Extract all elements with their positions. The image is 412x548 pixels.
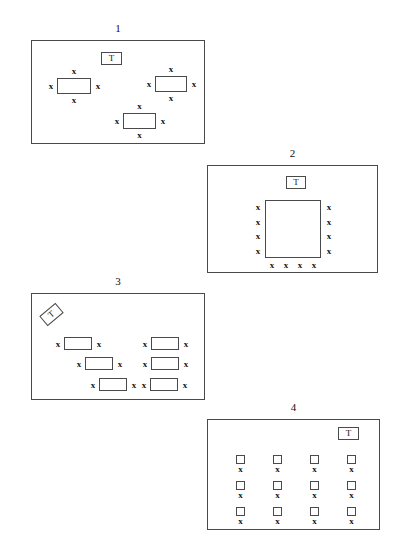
panel-3: 3Txxxxxxxxxxxx xyxy=(31,293,205,400)
node-2-center[interactable] xyxy=(265,200,321,258)
node-3-e-mark-left: x xyxy=(88,381,98,390)
node-1-bottom[interactable] xyxy=(123,113,156,129)
node-3-d-mark-left: x xyxy=(140,360,150,369)
grid-4-cell-r1c2[interactable] xyxy=(273,455,282,464)
panel-2: 2Txxxxxxxxxxxx xyxy=(207,165,378,273)
grid-4-mark-r3c2: x xyxy=(273,517,283,526)
grid-4-cell-r2c4[interactable] xyxy=(347,481,356,490)
node-1-right-mark-bottom: x xyxy=(165,94,177,103)
node-1-left-mark-top: x xyxy=(68,67,80,76)
node-1-bottom-mark-top: x xyxy=(134,102,146,111)
grid-4-mark-r1c4: x xyxy=(347,465,357,474)
grid-4-cell-r2c2[interactable] xyxy=(273,481,282,490)
panel-1: 1Txxxxxxxxxxxx xyxy=(31,40,205,144)
grid-4-cell-r3c3[interactable] xyxy=(310,507,319,516)
node-3-a-mark-left: x xyxy=(53,340,63,349)
node-3-c-mark-left: x xyxy=(74,360,84,369)
panel-label-4: 4 xyxy=(207,400,380,414)
grid-4-mark-r3c1: x xyxy=(236,517,246,526)
panel-label-2: 2 xyxy=(207,146,378,160)
grid-4-cell-r1c4[interactable] xyxy=(347,455,356,464)
grid-4-cell-r3c4[interactable] xyxy=(347,507,356,516)
node-3-b-mark-left: x xyxy=(140,340,150,349)
node-3-a[interactable] xyxy=(64,337,92,350)
grid-4-cell-r2c3[interactable] xyxy=(310,481,319,490)
grid-4-mark-r2c1: x xyxy=(236,491,246,500)
node-3-b[interactable] xyxy=(151,337,179,350)
figure-canvas: 1Txxxxxxxxxxxx2Txxxxxxxxxxxx3Txxxxxxxxxx… xyxy=(0,0,412,548)
node-3-a-mark-right: x xyxy=(94,340,104,349)
node-1-bottom-mark-bottom: x xyxy=(134,131,146,140)
grid-4-cell-r2c1[interactable] xyxy=(236,481,245,490)
node-3-b-mark-right: x xyxy=(181,340,191,349)
node-2-center-mark-bottom-2: x xyxy=(281,261,291,270)
badge-t-panel-2[interactable]: T xyxy=(286,176,306,189)
node-2-center-mark-bottom-4: x xyxy=(309,261,319,270)
grid-4-mark-r3c3: x xyxy=(310,517,320,526)
node-2-center-mark-bottom-1: x xyxy=(267,261,277,270)
node-2-center-mark-left-stack-2: x xyxy=(253,218,263,227)
node-3-c-mark-right: x xyxy=(115,360,125,369)
grid-4-mark-r1c2: x xyxy=(273,465,283,474)
grid-4-mark-r2c4: x xyxy=(347,491,357,500)
node-1-bottom-mark-right: x xyxy=(158,117,168,126)
node-1-right-mark-left: x xyxy=(144,80,154,89)
node-3-d-mark-right: x xyxy=(181,360,191,369)
node-2-center-mark-right-stack-1: x xyxy=(324,203,334,212)
grid-4-mark-r2c2: x xyxy=(273,491,283,500)
node-2-center-mark-left-stack-1: x xyxy=(253,203,263,212)
node-1-right[interactable] xyxy=(155,76,187,92)
badge-t-panel-4[interactable]: T xyxy=(338,427,359,440)
grid-4-mark-r1c1: x xyxy=(236,465,246,474)
grid-4-cell-r3c2[interactable] xyxy=(273,507,282,516)
node-3-c[interactable] xyxy=(85,357,113,370)
node-3-f[interactable] xyxy=(150,378,178,391)
node-3-e-mark-right: x xyxy=(129,381,139,390)
panel-4: 4Txxxxxxxxxxxx xyxy=(207,419,380,530)
grid-4-cell-r1c3[interactable] xyxy=(310,455,319,464)
node-1-left-mark-left: x xyxy=(46,82,56,91)
node-3-d[interactable] xyxy=(151,357,179,370)
node-1-left-mark-right: x xyxy=(93,82,103,91)
badge-t-panel-1[interactable]: T xyxy=(101,52,122,65)
node-2-center-mark-left-stack-3: x xyxy=(253,232,263,241)
panel-label-3: 3 xyxy=(31,274,205,288)
node-1-left[interactable] xyxy=(57,78,91,94)
grid-4-cell-r3c1[interactable] xyxy=(236,507,245,516)
badge-t-label: T xyxy=(46,309,56,320)
node-2-center-mark-right-stack-3: x xyxy=(324,232,334,241)
badge-t-label: T xyxy=(109,54,115,63)
node-3-f-mark-left: x xyxy=(139,381,149,390)
node-3-f-mark-right: x xyxy=(180,381,190,390)
node-3-e[interactable] xyxy=(99,378,127,391)
node-1-bottom-mark-left: x xyxy=(112,117,122,126)
node-2-center-mark-bottom-3: x xyxy=(295,261,305,270)
node-2-center-mark-right-stack-2: x xyxy=(324,218,334,227)
grid-4-mark-r1c3: x xyxy=(310,465,320,474)
node-2-center-mark-right-stack-4: x xyxy=(324,247,334,256)
node-1-right-mark-right: x xyxy=(189,80,199,89)
grid-4-cell-r1c1[interactable] xyxy=(236,455,245,464)
node-1-right-mark-top: x xyxy=(165,65,177,74)
grid-4-mark-r3c4: x xyxy=(347,517,357,526)
badge-t-label: T xyxy=(346,429,352,438)
panel-label-1: 1 xyxy=(31,21,205,35)
node-1-left-mark-bottom: x xyxy=(68,96,80,105)
node-2-center-mark-left-stack-4: x xyxy=(253,247,263,256)
badge-t-label: T xyxy=(293,178,299,187)
grid-4-mark-r2c3: x xyxy=(310,491,320,500)
